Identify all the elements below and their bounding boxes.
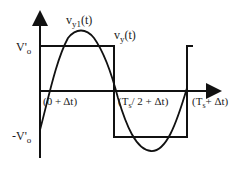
vy1-label: vy1(t): [66, 13, 92, 29]
t-full-label: (Ts+ Δt): [192, 95, 229, 110]
waveform-diagram: vy1(t) vy(t) V'o -V'o (0 + Δt) (Ts/ 2 + …: [0, 0, 244, 170]
t0-label: (0 + Δt): [43, 95, 77, 108]
v-positive-label: V'o: [16, 40, 32, 56]
vy-label: vy(t): [114, 28, 136, 44]
v-negative-label: -V'o: [12, 129, 32, 145]
t-half-label: (Ts/ 2 + Δt): [118, 95, 169, 110]
